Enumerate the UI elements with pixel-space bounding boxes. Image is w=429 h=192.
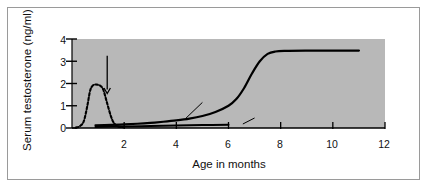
figure-root: Serum testosterone (ng/ml) Age in months… [0,0,429,192]
plot-area-background [72,39,385,128]
plot-canvas [0,0,429,192]
